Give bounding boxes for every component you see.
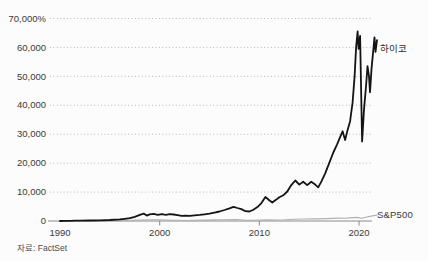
y-tick-label: 50,000 — [17, 71, 46, 82]
source-label: 자료: FactSet — [17, 241, 67, 253]
y-tick-label: 70,000% — [8, 13, 46, 24]
y-tick-label: 20,000 — [17, 157, 46, 168]
y-tick-label: 40,000 — [17, 99, 46, 110]
y-tick-label: 60,000 — [17, 42, 46, 53]
y-tick-label: 10,000 — [17, 186, 46, 197]
chart: 010,00020,00030,00040,00050,00060,00070,… — [0, 0, 428, 261]
chart-canvas: 010,00020,00030,00040,00050,00060,00070,… — [0, 0, 428, 261]
x-tick-label: 2020 — [348, 227, 369, 238]
x-tick-label: 1990 — [49, 227, 70, 238]
sp500-series-label: S&P500 — [377, 209, 413, 220]
heico-series-label: 하이코 — [380, 41, 408, 55]
y-tick-label: 0 — [41, 215, 46, 226]
x-tick-label: 2000 — [149, 227, 170, 238]
heico-series-line — [60, 32, 377, 222]
y-tick-label: 30,000 — [17, 128, 46, 139]
x-tick-label: 2010 — [249, 227, 270, 238]
